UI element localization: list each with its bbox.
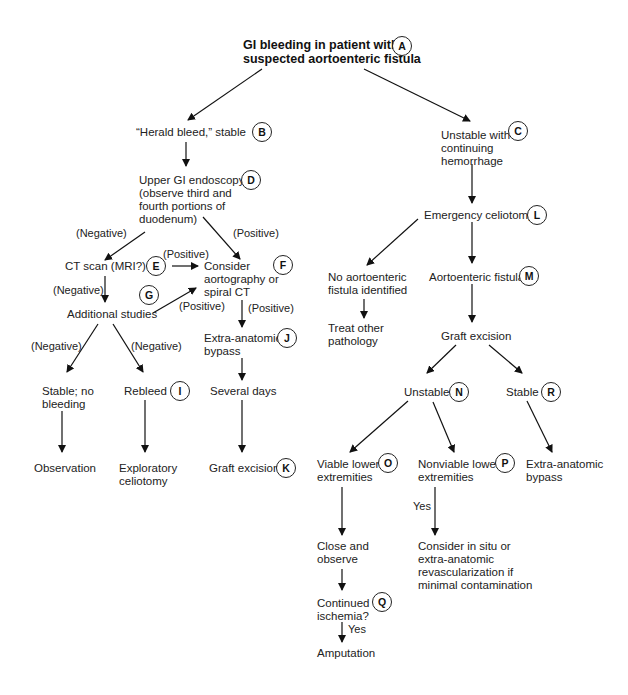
node-f-aortography: Consider aortography or spiral CT (204, 260, 279, 299)
node-c-line-1: Unstable with (441, 129, 510, 142)
node-h-line-2: bleeding (42, 398, 94, 411)
flowchart-canvas: GI bleeding in patient with suspected ao… (0, 0, 628, 695)
node-graft-excision-right: Graft excision (441, 330, 511, 343)
node-close-and-observe: Close and observe (317, 540, 369, 566)
badge-q: Q (372, 592, 392, 612)
node-f-line-3: spiral CT (204, 286, 279, 299)
node-r-text: Stable (506, 386, 539, 398)
edge-label-g-negative-left: (Negative) (31, 340, 82, 352)
node-amputation-text: Amputation (317, 647, 375, 659)
edge-label-f-positive: (Positive) (248, 302, 294, 314)
badge-o: O (378, 453, 398, 473)
badge-p: P (495, 453, 515, 473)
flowchart-arrows (0, 0, 628, 695)
node-e-text: CT scan (MRI?) (65, 260, 146, 272)
node-p-line-2: extremities (418, 471, 500, 484)
node-b-text: “Herald bleed,” stable (136, 126, 246, 138)
node-o-viable-lower-extremities: Viable lower extremities (317, 458, 379, 484)
node-g-text: Additional studies (67, 308, 157, 320)
node-several-days: Several days (210, 385, 276, 398)
node-n-unstable: Unstable (404, 386, 449, 399)
node-d-line-1: Upper GI endoscopy (139, 174, 244, 187)
edge-label-p-yes: Yes (413, 500, 431, 512)
node-consider-line-3: revascularization if (418, 566, 532, 579)
node-treat-other-pathology: Treat other pathology (328, 322, 384, 348)
badge-r: R (541, 382, 561, 402)
node-d-upper-gi-endoscopy: Upper GI endoscopy (observe third and fo… (139, 174, 244, 226)
node-no-fistula-line-1: No aortoenteric (328, 271, 407, 284)
node-close-line-1: Close and (317, 540, 369, 553)
node-observation: Observation (34, 462, 96, 475)
badge-b: B (252, 122, 272, 142)
badge-g: G (139, 285, 159, 305)
node-no-fistula-line-2: fistula identified (328, 284, 407, 297)
badge-k: K (276, 458, 296, 478)
node-o-line-1: Viable lower (317, 458, 379, 471)
node-amputation: Amputation (317, 647, 375, 660)
node-c-unstable-hemorrhage: Unstable with continuing hemorrhage (441, 129, 510, 168)
node-treat-line-1: Treat other (328, 322, 384, 335)
badge-a: A (392, 36, 412, 56)
node-stable-no-bleeding: Stable; no bleeding (42, 385, 94, 411)
badge-l: L (527, 205, 547, 225)
node-q-line-1: Continued (317, 597, 369, 610)
node-consider-in-situ: Consider in situ or extra-anatomic revas… (418, 540, 532, 592)
badge-i: I (170, 381, 190, 401)
edge-label-e-positive: (Positive) (163, 248, 209, 260)
node-m-text: Aortoenteric fistula (429, 271, 524, 283)
node-d-line-2: (observe third and (139, 187, 244, 200)
node-m-aortoenteric-fistula: Aortoenteric fistula (429, 271, 524, 284)
node-e-ct-scan: CT scan (MRI?) (65, 260, 146, 273)
node-i-rebleed: Rebleed (124, 385, 167, 398)
edge-label-g-negative-right: (Negative) (131, 340, 182, 352)
edge-label-g-positive: (Positive) (179, 300, 225, 312)
edge-label-e-negative: (Negative) (53, 284, 104, 296)
edge-label-d-negative: (Negative) (76, 227, 127, 239)
badge-f: F (273, 255, 293, 275)
node-l-emergency-celiotomy: Emergency celiotomy (424, 209, 534, 222)
node-consider-line-4: minimal contamination (418, 579, 532, 592)
node-f-line-2: aortography or (204, 273, 279, 286)
node-b-herald-bleed: “Herald bleed,” stable (136, 126, 246, 139)
node-o-line-2: extremities (317, 471, 379, 484)
node-d-line-4: duodenum) (139, 213, 244, 226)
badge-c: C (508, 121, 528, 141)
badge-d: D (241, 170, 261, 190)
node-exploratory-line-2: celiotomy (119, 475, 177, 488)
edge-label-q-yes: Yes (348, 623, 366, 635)
node-r-out-line-1: Extra-anatomic (526, 458, 603, 471)
node-treat-line-2: pathology (328, 335, 384, 348)
edge-label-d-positive: (Positive) (233, 227, 279, 239)
node-exploratory-line-1: Exploratory (119, 462, 177, 475)
node-several-days-text: Several days (210, 385, 276, 397)
node-r-out-line-2: bypass (526, 471, 603, 484)
node-h-line-1: Stable; no (42, 385, 94, 398)
node-consider-line-1: Consider in situ or (418, 540, 532, 553)
node-observation-text: Observation (34, 462, 96, 474)
node-consider-line-2: extra-anatomic (418, 553, 532, 566)
node-close-line-2: observe (317, 553, 369, 566)
node-j-line-2: bypass (204, 345, 281, 358)
badge-n: N (449, 382, 469, 402)
node-c-line-3: hemorrhage (441, 155, 510, 168)
node-p-nonviable-lower-extremities: Nonviable lower extremities (418, 458, 500, 484)
node-no-fistula-identified: No aortoenteric fistula identified (328, 271, 407, 297)
badge-m: M (519, 266, 539, 286)
node-j-line-1: Extra-anatomic (204, 332, 281, 345)
node-graft-right-text: Graft excision (441, 330, 511, 342)
node-r-stable: Stable (506, 386, 539, 399)
node-f-line-1: Consider (204, 260, 279, 273)
node-l-text: Emergency celiotomy (424, 209, 534, 221)
node-q-continued-ischemia: Continued ischemia? (317, 597, 369, 623)
node-k-text: Graft excision (209, 462, 279, 474)
badge-j: J (277, 328, 297, 348)
node-exploratory-celiotomy: Exploratory celiotomy (119, 462, 177, 488)
node-j-extra-anatomic-bypass: Extra-anatomic bypass (204, 332, 281, 358)
node-r-extra-anatomic-bypass: Extra-anatomic bypass (526, 458, 603, 484)
node-k-graft-excision: Graft excision (209, 462, 279, 475)
node-p-line-1: Nonviable lower (418, 458, 500, 471)
node-g-additional-studies: Additional studies (67, 308, 157, 321)
node-q-line-2: ischemia? (317, 610, 369, 623)
node-n-text: Unstable (404, 386, 449, 398)
node-d-line-3: fourth portions of (139, 200, 244, 213)
